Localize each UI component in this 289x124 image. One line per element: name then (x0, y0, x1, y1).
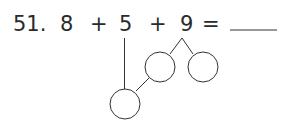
bond-circle-left[interactable] (145, 52, 175, 82)
split-lines-9 (170, 38, 193, 54)
number-bond-diagram (0, 0, 289, 124)
bond-circle-ten[interactable] (110, 89, 140, 119)
bond-circle-right[interactable] (188, 52, 218, 82)
connector-line-ten (136, 77, 150, 91)
